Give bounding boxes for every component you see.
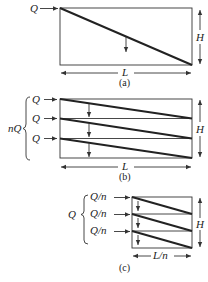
- height-label-a: H: [195, 31, 205, 43]
- particle-trajectory: [60, 99, 192, 119]
- inflow-label-c-3: Q/n: [90, 224, 107, 236]
- height-label-c: H: [195, 218, 205, 230]
- brace-icon: [81, 195, 88, 244]
- inflow-label-b-3: Q: [32, 132, 40, 144]
- caption-a: (a): [119, 77, 130, 89]
- sedimentation-tank-diagram: Q H L (a) nQ Q Q Q H: [0, 0, 208, 282]
- inflow-label-b-1: Q: [32, 93, 40, 105]
- brace-icon: [23, 97, 30, 160]
- length-label-c: L/n: [152, 249, 168, 261]
- particle-trajectory: [132, 214, 192, 231]
- height-label-b: H: [195, 123, 205, 135]
- panel-c: Q Q/n Q/n Q/n H L/n (c): [68, 190, 205, 274]
- panel-a: Q H L (a): [30, 2, 205, 89]
- particle-trajectory: [60, 8, 192, 65]
- particle-trajectory: [60, 119, 192, 139]
- inflow-label-a: Q: [30, 2, 38, 14]
- inflow-label-b-2: Q: [32, 112, 40, 124]
- inflow-label-c-1: Q/n: [90, 190, 107, 202]
- caption-b: (b): [119, 171, 131, 183]
- total-flow-label-c: Q: [68, 208, 76, 220]
- inflow-label-c-2: Q/n: [90, 207, 107, 219]
- panel-b: nQ Q Q Q H L (b): [8, 93, 205, 183]
- particle-trajectory: [60, 139, 192, 159]
- particle-trajectory: [132, 197, 192, 214]
- caption-c: (c): [119, 262, 130, 274]
- particle-trajectory: [132, 231, 192, 248]
- total-flow-label-b: nQ: [8, 122, 22, 134]
